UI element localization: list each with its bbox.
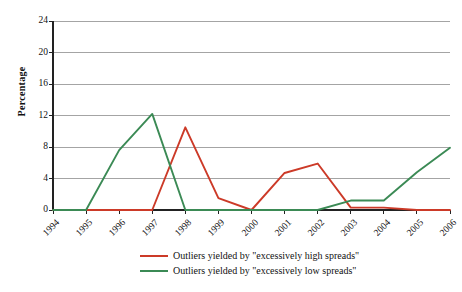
legend-item-low[interactable]: Outliers yielded by "excessively low spr… (0, 263, 462, 278)
legend-item-high[interactable]: Outliers yielded by "excessively high sp… (0, 248, 462, 263)
legend-label-low: Outliers yielded by "excessively low spr… (173, 265, 356, 276)
chart-legend: Outliers yielded by "excessively high sp… (0, 248, 462, 278)
legend-swatch-low (140, 270, 168, 272)
legend-label-high: Outliers yielded by "excessively high sp… (173, 250, 359, 261)
legend-swatch-high (140, 255, 168, 257)
line-chart: Percentage 04812162024 19941995199619971… (0, 0, 462, 292)
